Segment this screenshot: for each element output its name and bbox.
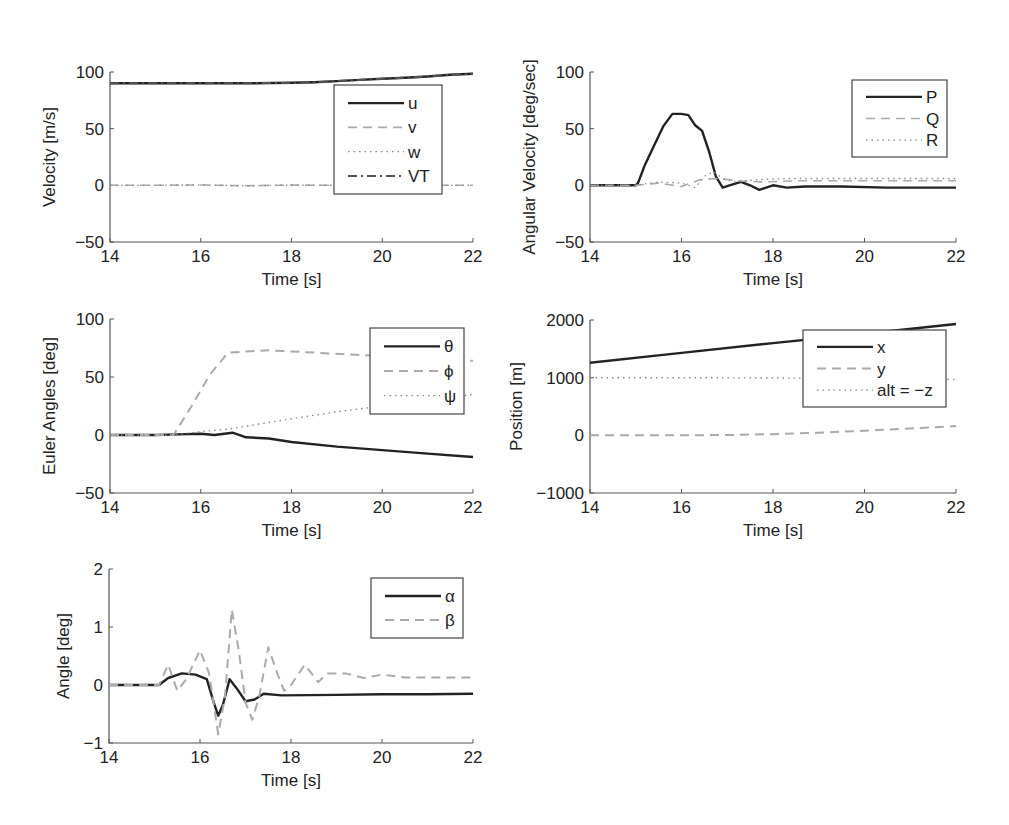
y-tick-label: 1 (94, 618, 103, 637)
y-axis-label: Velocity [m/s] (40, 107, 59, 207)
y-tick-label: 50 (565, 120, 584, 139)
y-axis-label: Position [m] (507, 362, 526, 451)
legend-label: R (926, 131, 938, 150)
series-line (590, 426, 956, 435)
x-tick-label: 18 (282, 748, 301, 767)
x-tick-label: 20 (373, 247, 392, 266)
x-axis-label: Time [s] (743, 521, 803, 540)
y-tick-label: 2000 (546, 311, 584, 330)
legend: PQR (852, 80, 947, 157)
legend-label: Q (926, 110, 939, 129)
x-tick-label: 18 (282, 247, 301, 266)
legend-label: α (445, 587, 455, 606)
x-tick-label: 16 (672, 498, 691, 517)
x-tick-label: 20 (373, 748, 392, 767)
x-tick-label: 20 (855, 498, 874, 517)
x-tick-label: 16 (191, 247, 210, 266)
series-line (110, 74, 473, 84)
y-tick-label: −50 (75, 233, 104, 252)
x-tick-label: 18 (282, 498, 301, 517)
chart-aero_angles: 1416182022−1012Time [s]Angle [deg]αβ (54, 560, 482, 790)
x-tick-label: 20 (855, 247, 874, 266)
legend-label: θ (444, 337, 453, 356)
chart-velocity: 1416182022−50050100Time [s]Velocity [m/s… (40, 63, 482, 289)
legend-label: v (408, 118, 417, 137)
chart-euler_angles: 1416182022−50050100Time [s]Euler Angles … (40, 310, 482, 540)
x-axis-label: Time [s] (262, 521, 322, 540)
x-tick-label: 18 (764, 247, 783, 266)
y-axis-label: Angle [deg] (54, 613, 73, 699)
y-tick-label: −50 (555, 233, 584, 252)
x-tick-label: 22 (947, 247, 966, 266)
x-axis-label: Time [s] (743, 270, 803, 289)
x-tick-label: 22 (464, 247, 483, 266)
legend-label: ϕ (444, 362, 454, 381)
legend-label: ψ (444, 387, 456, 406)
y-tick-label: 0 (575, 426, 584, 445)
y-tick-label: 0 (94, 676, 103, 695)
legend: uvwVT (334, 85, 442, 194)
y-tick-label: 50 (85, 368, 104, 387)
legend-label: w (407, 143, 421, 162)
x-tick-label: 22 (464, 748, 483, 767)
x-tick-label: 20 (373, 498, 392, 517)
legend: xyalt = −z (803, 330, 946, 407)
y-tick-label: 2 (94, 560, 103, 579)
y-tick-label: 0 (575, 176, 584, 195)
y-tick-label: −1000 (536, 484, 584, 503)
x-tick-label: 22 (464, 498, 483, 517)
legend-label: y (877, 360, 886, 379)
y-axis-label: Angular Velocity [deg/sec] (520, 59, 539, 255)
y-tick-label: 50 (85, 120, 104, 139)
x-tick-label: 16 (191, 748, 210, 767)
x-tick-label: 16 (191, 498, 210, 517)
y-tick-label: 0 (95, 176, 104, 195)
y-tick-label: 0 (95, 426, 104, 445)
legend-label: u (408, 94, 417, 113)
x-tick-label: 16 (672, 247, 691, 266)
y-axis-label: Euler Angles [deg] (40, 337, 59, 475)
y-tick-label: 100 (76, 310, 104, 329)
x-tick-label: 22 (947, 498, 966, 517)
x-tick-label: 18 (764, 498, 783, 517)
x-axis-label: Time [s] (261, 771, 321, 790)
legend-label: P (926, 88, 937, 107)
series-line (110, 433, 473, 457)
chart-angular_velocity: 1416182022−50050100Time [s]Angular Veloc… (520, 59, 965, 289)
x-axis-label: Time [s] (262, 270, 322, 289)
series-line (109, 673, 473, 715)
y-tick-label: 100 (556, 63, 584, 82)
figure-canvas: 1416182022−50050100Time [s]Velocity [m/s… (0, 0, 1009, 825)
figure: 1416182022−50050100Time [s]Velocity [m/s… (0, 0, 1009, 825)
legend: θϕψ (370, 328, 464, 414)
legend-label: β (445, 611, 455, 630)
figure-caption-cutoff (100, 815, 460, 825)
y-tick-label: −50 (75, 484, 104, 503)
legend-label: alt = −z (877, 381, 933, 400)
legend-label: VT (408, 167, 430, 186)
y-tick-label: 1000 (546, 369, 584, 388)
legend-label: x (877, 338, 886, 357)
y-tick-label: 100 (76, 63, 104, 82)
y-tick-label: −1 (84, 734, 103, 753)
chart-position: 1416182022−1000010002000Time [s]Position… (507, 311, 965, 540)
legend: αβ (371, 578, 463, 638)
